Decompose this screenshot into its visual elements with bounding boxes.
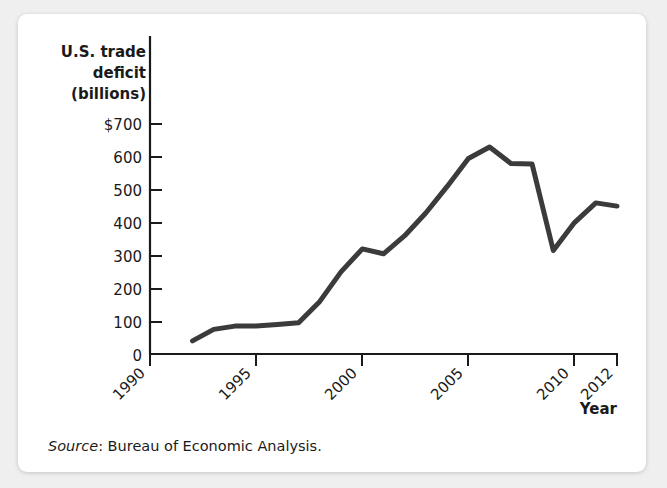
trade-deficit-series-line xyxy=(193,147,618,341)
x-tick-label: 1990 xyxy=(109,364,149,404)
x-axis-ticks: 1990 1995 2000 2005 2010 2012 xyxy=(109,354,617,404)
y-tick-label: 600 xyxy=(113,149,142,167)
x-tick-label: 2005 xyxy=(427,364,467,404)
x-tick-label: 2012 xyxy=(577,364,617,404)
y-axis-ticks: $700 600 500 400 300 200 100 0 xyxy=(104,116,162,365)
x-tick-label: 2000 xyxy=(321,364,361,404)
y-axis-title-line-2: deficit xyxy=(93,64,146,82)
y-tick-label: 300 xyxy=(113,248,142,266)
y-tick-label: 100 xyxy=(113,314,142,332)
y-axis-title-line-1: U.S. trade xyxy=(61,43,146,61)
y-tick-label: 0 xyxy=(132,347,142,365)
source-text: : Bureau of Economic Analysis. xyxy=(98,438,322,454)
x-axis-title: Year xyxy=(579,400,618,418)
y-axis-title-line-3: (billions) xyxy=(71,85,146,103)
y-tick-label: $700 xyxy=(104,116,142,134)
y-axis-title: U.S. trade deficit (billions) xyxy=(61,43,146,103)
x-tick-label: 1995 xyxy=(215,364,255,404)
y-tick-label: 400 xyxy=(113,215,142,233)
y-tick-label: 500 xyxy=(113,182,142,200)
chart-plot-area: U.S. trade deficit (billions) $700 600 5… xyxy=(18,14,646,472)
source-note: Source: Bureau of Economic Analysis. xyxy=(48,438,322,454)
x-tick-label: 2010 xyxy=(533,364,573,404)
figure-card: U.S. trade deficit (billions) $700 600 5… xyxy=(18,14,646,472)
source-label: Source xyxy=(48,438,98,454)
y-tick-label: 200 xyxy=(113,281,142,299)
trade-deficit-line-chart: U.S. trade deficit (billions) $700 600 5… xyxy=(18,14,646,472)
